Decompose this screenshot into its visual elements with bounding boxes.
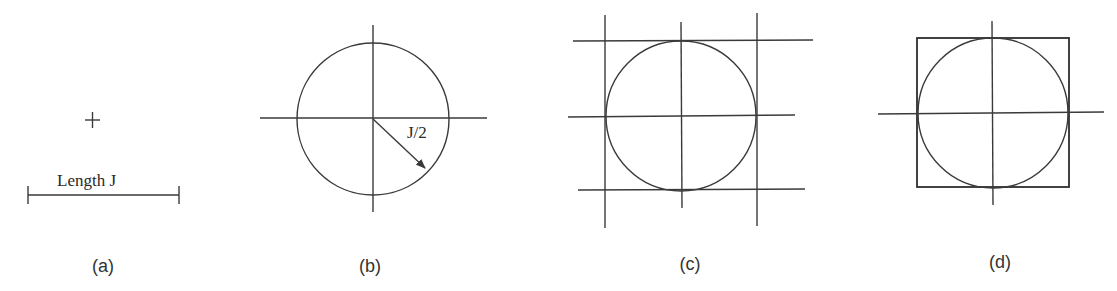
vertical-axis-line bbox=[992, 21, 993, 205]
length-label: Length J bbox=[57, 171, 116, 190]
caption-d: (d) bbox=[989, 252, 1011, 272]
center-point-plus-icon bbox=[85, 112, 100, 128]
caption-b: (b) bbox=[359, 256, 381, 276]
bottom-tangent-line bbox=[578, 189, 805, 190]
caption-a: (a) bbox=[92, 256, 114, 276]
circle-construction-figure: Length J J/2 (a) (b) (c) (d) bbox=[0, 0, 1117, 291]
caption-c: (c) bbox=[680, 254, 701, 274]
center-vertical-line bbox=[681, 22, 682, 208]
top-tangent-line bbox=[573, 40, 813, 41]
radius-label: J/2 bbox=[407, 123, 427, 142]
horizontal-axis-line bbox=[878, 112, 1104, 114]
panel-b: J/2 bbox=[260, 25, 487, 212]
panel-c bbox=[568, 13, 813, 228]
panel-a: Length J bbox=[28, 112, 179, 204]
panel-d bbox=[878, 21, 1104, 205]
